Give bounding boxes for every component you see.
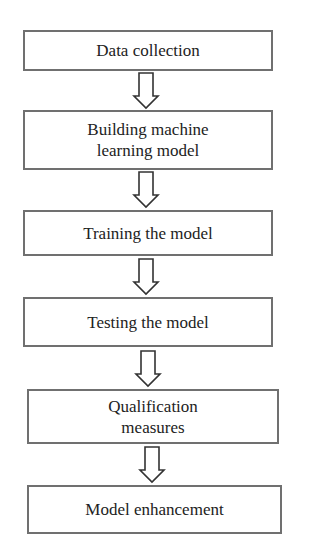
down-arrow-icon (132, 72, 160, 110)
step-label: Testing the model (87, 312, 209, 333)
step-training-model: Training the model (23, 210, 273, 256)
step-label: Qualification measures (108, 396, 198, 438)
down-arrow-icon (138, 446, 166, 484)
step-label: Data collection (96, 40, 199, 61)
step-model-enhancement: Model enhancement (27, 485, 282, 534)
step-building-model: Building machine learning model (23, 110, 273, 170)
step-label: Building machine learning model (87, 119, 208, 161)
step-testing-model: Testing the model (23, 297, 273, 347)
step-label: Training the model (83, 223, 213, 244)
step-label: Model enhancement (85, 499, 223, 520)
step-data-collection: Data collection (23, 30, 273, 71)
step-qualification-measures: Qualification measures (27, 389, 279, 444)
down-arrow-icon (132, 258, 160, 296)
down-arrow-icon (134, 350, 162, 388)
down-arrow-icon (132, 171, 160, 209)
